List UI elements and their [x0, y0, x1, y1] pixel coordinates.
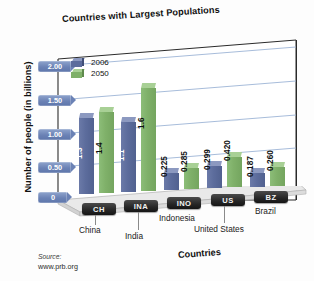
country-name-united-states: United States: [194, 224, 244, 234]
y-tick-0-50: 0.50: [38, 162, 71, 173]
y-tick-0: 0: [38, 192, 67, 203]
y-tick-1-00: 1.00: [38, 129, 71, 140]
bar-value-china-2050: 1.4: [95, 142, 104, 154]
bar-value-china-2006: 1.3: [75, 147, 84, 159]
bar-value-brazil-2050: 0.260: [266, 150, 275, 171]
bar-value-united-states-2006: 0.299: [203, 149, 212, 170]
blue-cube-icon: [71, 58, 82, 67]
source-url: www.prb.org: [38, 262, 78, 272]
country-code-ino: INO: [167, 197, 201, 209]
country-code-us: US: [211, 194, 245, 206]
y-axis-title: Number of people (in billions): [23, 52, 33, 202]
bar-value-brazil-2006: 0.187: [246, 156, 255, 177]
y-tick-1-50: 1.50: [38, 95, 71, 106]
bar-value-india-2006: 1.1: [117, 149, 126, 161]
population-bar-chart: Countries with Largest Populations Numbe…: [0, 0, 314, 281]
legend-label-2050: 2050: [91, 69, 109, 78]
country-code-ch: CH: [82, 203, 116, 215]
page-title: Countries with Largest Populations: [62, 5, 220, 24]
bar-value-united-states-2050: 0.420: [223, 140, 232, 161]
country-name-indonesia: Indonesia: [159, 213, 195, 223]
bar-value-indonesia-2006: 0.225: [160, 156, 169, 177]
bar-value-indonesia-2050: 0.285: [180, 151, 189, 172]
bar-india-2050: [141, 88, 156, 191]
legend-label-2006: 2006: [91, 58, 109, 67]
leader-line-india: [138, 212, 139, 230]
source-label: Source:: [38, 252, 78, 262]
bar-united-states-2050: [227, 157, 242, 187]
source-credit: Source: www.prb.org: [38, 252, 78, 271]
country-code-ina: INA: [124, 200, 158, 212]
country-name-brazil: Brazil: [255, 206, 276, 216]
bar-value-india-2050: 1.6: [137, 117, 146, 129]
y-tick-2-00: 2.00: [38, 61, 71, 72]
country-name-china: China: [79, 225, 101, 235]
country-code-bz: BZ: [254, 191, 288, 203]
country-name-india: India: [125, 231, 143, 241]
x-axis-title: Countries: [178, 247, 221, 260]
leader-line-china: [95, 215, 96, 225]
green-cube-icon: [71, 69, 82, 78]
leader-line-united-states: [224, 206, 225, 223]
